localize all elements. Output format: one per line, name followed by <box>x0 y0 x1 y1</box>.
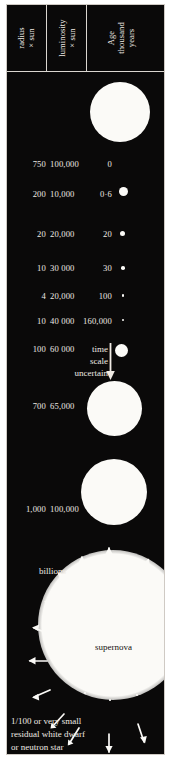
time-scale-down-arrow-icon <box>105 342 116 382</box>
remnant-line-1: 1/100 or very small <box>11 715 85 728</box>
luminosity-header-cell: luminosity× sun <box>47 4 86 71</box>
time-scale-uncertain-label: time scale uncertain <box>50 343 108 379</box>
row-2-age: 0·6 <box>82 189 112 199</box>
row-1-age: 0 <box>82 159 112 169</box>
star-disk-row-7 <box>115 344 128 357</box>
age-header-cell: Agethousandyears <box>87 4 165 71</box>
star-disk-row-5 <box>122 294 125 297</box>
star-disk-row-2 <box>119 187 128 196</box>
age-header-text: Agethousandyears <box>106 22 136 54</box>
time-scale-line-2: scale <box>50 355 108 367</box>
row-1-radius: 750 <box>6 159 46 169</box>
remnant-caption: 1/100 or very small residual white dwarf… <box>11 715 85 754</box>
remnant-line-2: residual white dwarf <box>11 728 85 741</box>
row-6-age: 160,000 <box>76 316 112 326</box>
column-header-band: radius× sun luminosity× sun Agethousandy… <box>6 4 165 72</box>
row-4-radius: 10 <box>6 263 46 273</box>
time-scale-line-1: time <box>50 343 108 355</box>
star-disk-row-9 <box>81 459 147 525</box>
time-scale-line-3: uncertain <box>50 367 108 379</box>
star-disk-row-8 <box>87 381 142 436</box>
diagram-plate: radius× sun luminosity× sun Agethousandy… <box>6 4 165 755</box>
star-disk-row-3 <box>120 231 125 236</box>
billions-label: billions <box>39 565 66 577</box>
row-6-radius: 10 <box>6 316 46 326</box>
stellar-evolution-figure: radius× sun luminosity× sun Agethousandy… <box>0 0 175 760</box>
row-4-age: 30 <box>82 263 112 273</box>
supernova-label: supernova <box>95 641 132 653</box>
row-7-radius: 100 <box>6 344 46 354</box>
star-disk-row-4 <box>121 266 125 270</box>
radius-header-cell: radius× sun <box>6 4 46 71</box>
row-3-radius: 20 <box>6 229 46 239</box>
row-2-radius: 200 <box>6 189 46 199</box>
row-8-luminosity: 65,000 <box>50 401 92 411</box>
row-8-radius: 700 <box>6 401 46 411</box>
remnant-line-3: or neutron star <box>11 741 85 754</box>
row-5-age: 100 <box>82 291 112 301</box>
star-disk-row-1 <box>90 82 150 142</box>
row-3-age: 20 <box>82 229 112 239</box>
row-5-radius: 4 <box>6 291 46 301</box>
radius-header-text: radius× sun <box>16 27 36 48</box>
row-9-luminosity: 100,000 <box>50 504 92 514</box>
luminosity-header-text: luminosity× sun <box>56 19 76 56</box>
row-9-radius: 1,000 <box>6 504 46 514</box>
star-disk-row-6 <box>122 319 124 321</box>
